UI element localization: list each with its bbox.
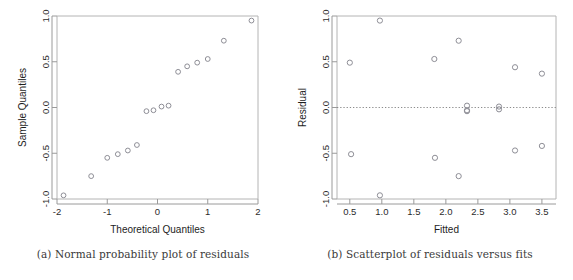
data-point [377, 18, 382, 23]
plot-frame [57, 16, 258, 199]
data-point [61, 193, 66, 198]
x-axis-tick-labels: 0.51.01.52.02.53.03.5 [343, 206, 548, 217]
data-point [221, 38, 226, 43]
data-point [125, 148, 130, 153]
x-tick-label: 0 [155, 206, 160, 217]
x-tick-label: -2 [53, 206, 61, 217]
y-axis-title: Residual [297, 88, 308, 127]
data-point [159, 104, 164, 109]
x-axis-ticks [57, 199, 258, 204]
data-point [512, 65, 517, 70]
x-tick-label: 2.5 [471, 206, 484, 217]
y-tick-label: 0.5 [40, 55, 51, 68]
x-tick-label: 0.5 [343, 206, 356, 217]
y-axis-title: Sample Quantiles [17, 68, 28, 147]
data-point [377, 193, 382, 198]
y-tick-label: 0.5 [320, 55, 331, 68]
y-tick-label: 0.0 [320, 101, 331, 114]
figure-container: -1.0 -0.5 0.0 0.5 1.0 Sample Quantiles -… [0, 0, 573, 280]
x-tick-label: 3.0 [503, 206, 516, 217]
data-point [348, 152, 353, 157]
data-point [176, 69, 181, 74]
panel-residuals-vs-fits: -1.0 -0.5 0.0 0.5 1.0 Residual 0.51.01.5… [287, 0, 573, 280]
data-point [115, 152, 120, 157]
x-tick-label: -1 [103, 206, 111, 217]
data-point [105, 155, 110, 160]
x-tick-label: 1 [205, 206, 210, 217]
data-point [539, 71, 544, 76]
x-tick-label: 1.5 [407, 206, 420, 217]
panel-caption: (a) Normal probability plot of residuals [0, 248, 286, 260]
residual-plot-svg: -1.0 -0.5 0.0 0.5 1.0 Residual 0.51.01.5… [287, 0, 573, 245]
x-tick-label: 3.5 [535, 206, 548, 217]
data-points [61, 18, 254, 198]
x-axis-ticks [337, 199, 556, 204]
x-tick-label: 2.0 [439, 206, 452, 217]
data-point [166, 103, 171, 108]
data-point [195, 60, 200, 65]
y-tick-label: -0.5 [320, 145, 331, 161]
y-tick-label: 1.0 [320, 9, 331, 22]
x-axis-title: Fitted [434, 224, 459, 235]
qq-plot-svg: -1.0 -0.5 0.0 0.5 1.0 Sample Quantiles -… [0, 0, 286, 245]
y-axis-tick-labels: -1.0 -0.5 0.0 0.5 1.0 [40, 9, 51, 207]
data-point [432, 56, 437, 61]
y-tick-label: -0.5 [40, 145, 51, 161]
data-point [347, 60, 352, 65]
data-point [432, 155, 437, 160]
data-point [456, 174, 461, 179]
y-tick-label: 1.0 [40, 9, 51, 22]
y-axis-ticks [52, 16, 57, 199]
x-axis-tick-labels: -2 -1 0 1 2 [53, 206, 261, 217]
data-point [185, 64, 190, 69]
data-point [144, 109, 149, 114]
data-point [135, 143, 140, 148]
y-axis-tick-labels: -1.0 -0.5 0.0 0.5 1.0 [320, 9, 331, 207]
x-axis-title: Theoretical Quantiles [110, 224, 205, 235]
y-axis-ticks [332, 16, 337, 199]
data-point [151, 108, 156, 113]
data-point [539, 143, 544, 148]
panel-caption: (b) Scatterplot of residuals versus fits [287, 248, 573, 260]
panel-normal-probability-plot: -1.0 -0.5 0.0 0.5 1.0 Sample Quantiles -… [0, 0, 286, 280]
data-point [205, 57, 210, 62]
y-tick-label: -1.0 [320, 191, 331, 207]
data-point [456, 38, 461, 43]
y-tick-label: -1.0 [40, 191, 51, 207]
x-tick-label: 1.0 [375, 206, 388, 217]
x-tick-label: 2 [255, 206, 260, 217]
data-point [89, 174, 94, 179]
y-tick-label: 0.0 [40, 101, 51, 114]
data-point [249, 18, 254, 23]
data-point [512, 148, 517, 153]
